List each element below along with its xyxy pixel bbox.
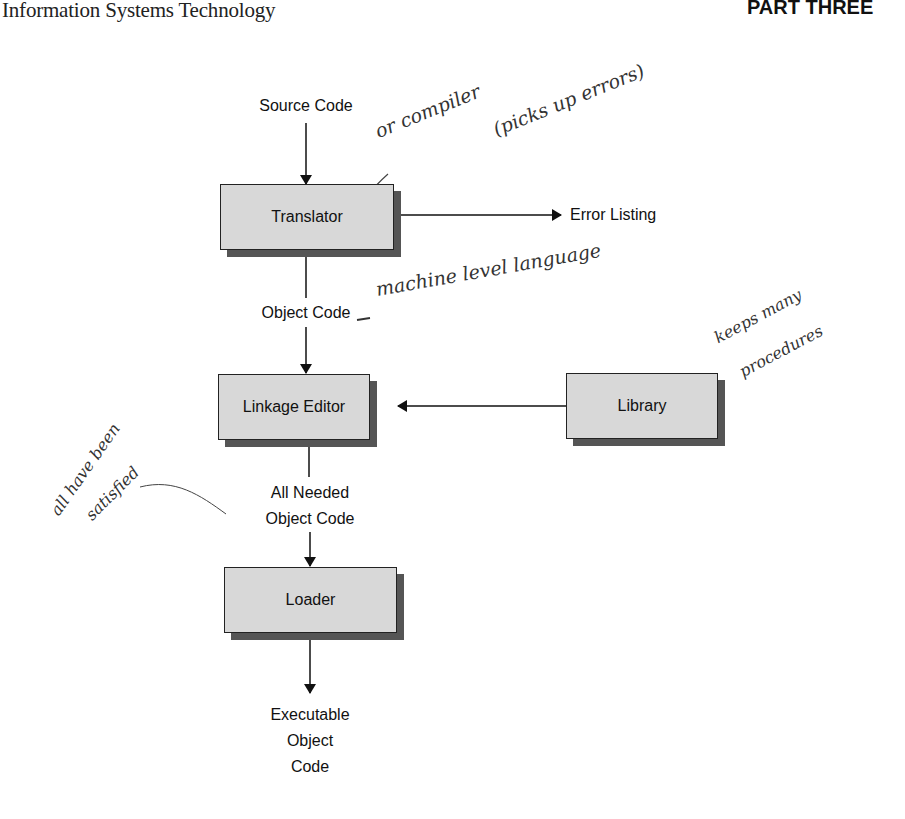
- label-object-code: Object Code: [243, 300, 369, 326]
- label-executable-line3: Code: [250, 754, 370, 780]
- box-linkage-editor-label: Linkage Editor: [243, 398, 345, 416]
- label-executable-line1: Executable: [250, 702, 370, 728]
- box-loader: Loader: [224, 567, 397, 633]
- label-error-listing: Error Listing: [570, 202, 656, 228]
- label-all-needed-line2: Object Code: [250, 506, 370, 532]
- box-translator: Translator: [220, 184, 394, 250]
- label-all-needed-line1: All Needed: [250, 480, 370, 506]
- diagram-connectors: [0, 0, 905, 819]
- box-library-label: Library: [618, 397, 667, 415]
- label-all-needed-object-code: All Needed Object Code: [250, 480, 370, 532]
- box-linkage-editor: Linkage Editor: [218, 374, 370, 440]
- label-executable-line2: Object: [250, 728, 370, 754]
- annotation-pointer-satisfied: [140, 485, 226, 514]
- box-translator-label: Translator: [271, 208, 342, 226]
- box-library: Library: [566, 373, 718, 439]
- label-executable-object-code: Executable Object Code: [250, 702, 370, 780]
- label-source-code: Source Code: [245, 93, 367, 119]
- box-loader-label: Loader: [286, 591, 336, 609]
